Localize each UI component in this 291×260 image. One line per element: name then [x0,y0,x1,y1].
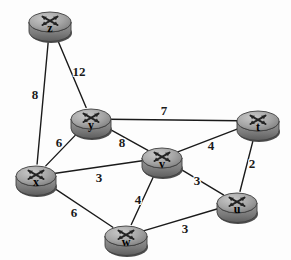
edge-weight-t-u: 2 [249,157,256,170]
node-label-w: w [122,236,131,248]
edge-weight-v-w: 4 [135,193,142,206]
edge-weight-w-u: 3 [182,222,189,235]
edge-weight-y-v: 8 [119,136,126,149]
edge-weight-z-y: 12 [73,65,86,78]
node-label-text-w: w [122,236,131,248]
edge-z-x [37,34,49,164]
node-label-text-z: z [47,22,52,34]
node-label-text-y: y [88,119,94,131]
node-label-u: u [234,203,241,215]
edge-x-w [49,185,113,228]
node-label-text-u: u [234,203,241,215]
edge-y-t [109,119,238,121]
edge-weight-y-t: 7 [161,104,168,117]
edge-weight-x-w: 6 [71,206,78,219]
edge-weight-v-t: 4 [208,139,215,152]
node-label-text-x: x [33,176,39,188]
edge-weight-x-v: 3 [96,171,103,184]
edge-weight-z-x: 8 [32,88,39,101]
node-label-text-t: t [256,121,260,133]
edge-weight-v-u: 3 [194,174,201,187]
node-label-z: z [47,22,52,34]
network-diagram-canvas: 8127864233463 zytvxuw [0,0,291,260]
graph-svg [0,0,291,260]
node-label-y: y [88,119,94,131]
node-label-x: x [33,176,39,188]
node-label-text-v: v [159,158,165,170]
node-label-t: t [256,121,260,133]
node-label-v: v [159,158,165,170]
edge-weight-y-x: 6 [56,136,63,149]
